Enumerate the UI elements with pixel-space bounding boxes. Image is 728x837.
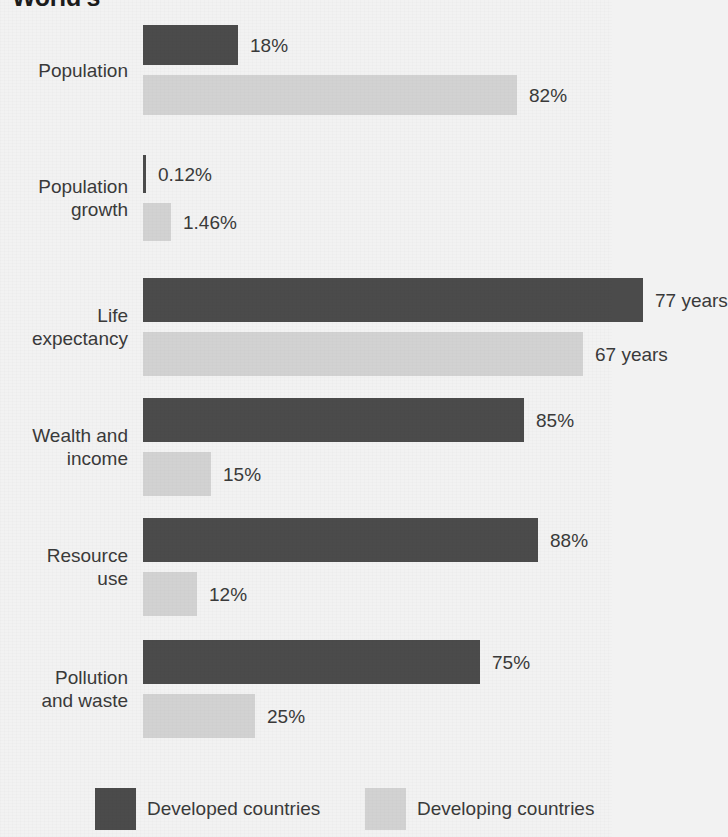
bar-group: Populationgrowth: [0, 155, 612, 241]
bar-group: Lifeexpectancy: [0, 278, 612, 376]
category-label-line: expectancy: [0, 327, 128, 350]
category-label: Population: [0, 59, 128, 82]
category-label: Lifeexpectancy: [0, 304, 128, 350]
chart-legend: Developed countriesDeveloping countries: [0, 786, 612, 832]
chart-title-clipped: World's: [0, 0, 612, 14]
category-label: Resourceuse: [0, 544, 128, 590]
bar-group: Resourceuse: [0, 518, 612, 616]
bar-group: Wealth andincome: [0, 398, 612, 496]
category-label-line: Resource: [0, 544, 128, 567]
legend-label: Developed countries: [147, 798, 320, 820]
category-label-line: use: [0, 567, 128, 590]
category-label-line: Wealth and: [0, 424, 128, 447]
category-label: Pollutionand waste: [0, 666, 128, 712]
bar-group: Population: [0, 25, 612, 115]
category-label-line: income: [0, 447, 128, 470]
bar-group: Pollutionand waste: [0, 640, 612, 738]
category-label-line: Population: [0, 59, 128, 82]
category-label: Populationgrowth: [0, 175, 128, 221]
category-label-line: Pollution: [0, 666, 128, 689]
category-label-line: and waste: [0, 689, 128, 712]
category-label: Wealth andincome: [0, 424, 128, 470]
grouped-bar-chart: 18%82%Population0.12%1.46%Populationgrow…: [0, 0, 612, 770]
bar-value-label: 77 years: [655, 291, 728, 310]
legend-swatch-developed: [95, 788, 136, 830]
legend-label: Developing countries: [417, 798, 594, 820]
category-label-line: Life: [0, 304, 128, 327]
chart-title-text: World's: [12, 0, 100, 12]
category-label-line: growth: [0, 198, 128, 221]
legend-swatch-developing: [365, 788, 406, 830]
category-label-line: Population: [0, 175, 128, 198]
